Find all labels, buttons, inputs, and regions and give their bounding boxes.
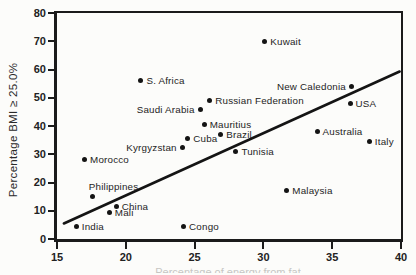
y-tick-mark xyxy=(48,97,57,99)
data-point-label: China xyxy=(122,200,149,213)
data-point-dot xyxy=(180,145,185,150)
data-point-label: New Caledonia xyxy=(277,80,346,93)
data-point-dot xyxy=(348,101,353,106)
data-point-label: Malaysia xyxy=(292,184,332,197)
data-point-label: India xyxy=(82,220,104,233)
data-point-dot xyxy=(315,129,320,134)
data-point-label: Congo xyxy=(189,220,219,233)
x-tick-label: 30 xyxy=(247,251,279,264)
y-tick-mark xyxy=(48,12,57,14)
scatter-plot: Percentage BMI ≥ 25.0% IndiaMoroccoPhili… xyxy=(0,0,416,275)
plot-area: IndiaMoroccoPhilippinesMaliChinaS. Afric… xyxy=(57,13,401,239)
data-point-label: Cuba xyxy=(193,132,217,145)
data-point-dot xyxy=(181,224,186,229)
data-point-label: USA xyxy=(356,97,377,110)
y-tick-mark xyxy=(48,40,57,42)
y-tick-label: 10 xyxy=(13,204,46,217)
y-tick-label: 60 xyxy=(13,63,46,76)
y-tick-mark xyxy=(48,238,57,240)
data-point-label: Brazil xyxy=(226,128,252,141)
x-tick-mark xyxy=(400,242,402,249)
x-tick-mark xyxy=(125,242,127,249)
data-point-label: Kuwait xyxy=(270,35,301,48)
data-point-dot xyxy=(367,139,372,144)
y-tick-mark xyxy=(48,210,57,212)
data-point-dot xyxy=(349,84,354,89)
data-point-dot xyxy=(74,224,79,229)
y-tick-label: 30 xyxy=(13,148,46,161)
x-axis-title-cropped: Percentage of energy from fat xyxy=(118,266,338,273)
x-tick-label: 15 xyxy=(41,251,73,264)
data-point-label: S. Africa xyxy=(146,74,184,87)
x-tick-mark xyxy=(331,242,333,249)
data-point-label: Saudi Arabia xyxy=(137,103,195,116)
y-tick-label: 80 xyxy=(13,7,46,20)
data-point-label: Kyrgyzstan xyxy=(126,141,176,154)
y-tick-label: 40 xyxy=(13,120,46,133)
y-tick-label: 0 xyxy=(13,233,46,246)
data-point-label: Philippines xyxy=(89,180,139,193)
y-tick-mark xyxy=(48,182,57,184)
data-point-dot xyxy=(114,204,119,209)
y-tick-label: 20 xyxy=(13,176,46,189)
data-point-label: Tunisia xyxy=(241,145,274,158)
x-tick-label: 25 xyxy=(179,251,211,264)
y-tick-label: 50 xyxy=(13,91,46,104)
data-point-dot xyxy=(198,107,203,112)
x-tick-label: 20 xyxy=(110,251,142,264)
data-point-label: Italy xyxy=(375,135,394,148)
data-point-label: Morocco xyxy=(90,153,129,166)
data-point-dot xyxy=(107,210,112,215)
y-tick-mark xyxy=(48,153,57,155)
y-tick-mark xyxy=(48,125,57,127)
x-tick-label: 35 xyxy=(316,251,348,264)
x-tick-label: 40 xyxy=(385,251,416,264)
x-tick-mark xyxy=(56,242,58,249)
x-tick-mark xyxy=(194,242,196,249)
data-point-dot xyxy=(202,122,207,127)
y-tick-mark xyxy=(48,69,57,71)
data-point-label: Australia xyxy=(323,125,363,138)
data-point-label: Russian Federation xyxy=(215,94,304,107)
x-tick-mark xyxy=(262,242,264,249)
y-tick-label: 70 xyxy=(13,35,46,48)
